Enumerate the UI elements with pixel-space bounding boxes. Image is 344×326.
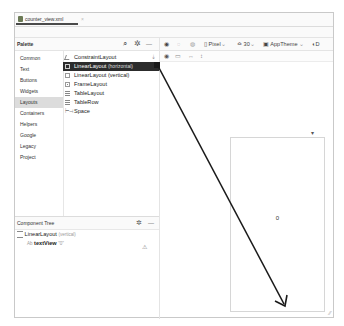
linear-layout-icon <box>17 231 23 238</box>
category-common[interactable]: Common <box>15 53 63 64</box>
palette-item-constraintlayout[interactable]: ConstraintLayout ⇣ <box>63 53 159 62</box>
category-project[interactable]: Project <box>15 152 63 163</box>
category-containers[interactable]: Containers <box>15 108 63 119</box>
close-tab-icon[interactable]: × <box>81 13 84 25</box>
linear-layout-vertical-icon <box>65 73 70 78</box>
component-tree-header: Component Tree ✲ — <box>15 216 159 230</box>
item-label: LinearLayout <box>74 63 106 69</box>
tree-node-label: textView <box>34 240 57 246</box>
category-buttons[interactable]: Buttons <box>15 75 63 86</box>
warning-icon[interactable]: ⚠ <box>142 243 147 250</box>
palette-item-linearlayout-vertical[interactable]: LinearLayout (vertical) <box>63 71 159 80</box>
palette-item-framelayout[interactable]: FrameLayout <box>63 80 159 89</box>
palette-item-tablerow[interactable]: TableRow <box>63 98 159 107</box>
locale-icon[interactable]: ◐D <box>312 38 319 50</box>
tree-node-sublabel: (vertical) <box>58 232 75 237</box>
category-text[interactable]: Text <box>15 64 63 75</box>
mode-strip <box>15 27 333 38</box>
item-sublabel: (vertical) <box>108 72 129 78</box>
item-label: ConstraintLayout <box>74 54 116 60</box>
palette-categories: Common Text Buttons Widgets Layouts Cont… <box>15 51 64 216</box>
space-icon: ⊢⊣ <box>65 109 70 114</box>
tree-node-label: LinearLayout <box>25 231 57 237</box>
item-label: Space <box>74 108 90 114</box>
blueprint-icon[interactable]: ◌ <box>177 38 180 50</box>
editor-tab-bar: counter_view.xml × <box>15 13 333 27</box>
item-sublabel: (horizontal) <box>108 63 133 69</box>
design-surface[interactable]: ▾ 0 ⁄⁄ <box>160 62 333 317</box>
tree-node-value: "0" <box>58 241 64 246</box>
item-label: LinearLayout <box>74 72 106 78</box>
gear-icon[interactable]: ✲ <box>134 39 141 49</box>
layout-bounds-icon[interactable]: ▭ <box>175 51 181 61</box>
api-level-selector[interactable]: ≏ 30⌄ <box>237 38 255 50</box>
category-layouts[interactable]: Layouts <box>15 97 63 108</box>
device-preview[interactable]: 0 <box>230 137 325 312</box>
palette-title: Palette <box>17 38 33 50</box>
frame-layout-icon <box>65 82 70 87</box>
resize-handle-icon[interactable]: ⁄⁄ <box>329 310 331 316</box>
layout-file-icon <box>18 16 23 22</box>
pin-icon: ▾ <box>311 129 314 136</box>
tab-counter-view-xml[interactable]: counter_view.xml × <box>16 13 78 25</box>
palette-item-tablelayout[interactable]: TableLayout <box>63 89 159 98</box>
tree-node-textview[interactable]: Ab textView "0" <box>27 239 64 248</box>
category-widgets[interactable]: Widgets <box>15 86 63 97</box>
textview-preview[interactable]: 0 <box>231 215 324 221</box>
theme-label: AppTheme <box>270 41 297 47</box>
device-label: Pixel <box>209 41 221 47</box>
tree-node-linearlayout[interactable]: LinearLayout (vertical) <box>17 230 76 239</box>
view-options-icon[interactable]: ◉ <box>164 51 169 61</box>
chevron-down-icon: ⌄ <box>221 41 226 47</box>
orientation-icon[interactable]: ◍ <box>190 38 195 50</box>
item-label: TableRow <box>74 99 99 105</box>
palette-items: ConstraintLayout ⇣ LinearLayout (horizon… <box>63 51 159 216</box>
search-icon[interactable]: ⌕ <box>123 39 127 49</box>
palette-header: Palette ⌕ ✲ — <box>15 38 159 51</box>
category-google[interactable]: Google <box>15 130 63 141</box>
download-icon[interactable]: ⇣ <box>151 53 156 62</box>
category-helpers[interactable]: Helpers <box>15 119 63 130</box>
chevron-down-icon: ⌄ <box>250 41 255 47</box>
design-view-icon[interactable]: ◉ <box>164 38 169 50</box>
design-toolbar: ◉ ◌ ◍ ▯ Pixel⌄ ≏ 30⌄ ▣ AppTheme ⌄ ◐D <box>160 38 333 51</box>
item-label: FrameLayout <box>74 81 107 87</box>
component-tree-title: Component Tree <box>17 217 54 229</box>
vertical-margin-icon[interactable]: ↕ <box>200 51 203 61</box>
table-layout-icon <box>65 91 70 96</box>
table-row-icon <box>65 100 70 105</box>
palette-item-linearlayout-horizontal[interactable]: LinearLayout (horizontal) <box>63 62 159 71</box>
palette-item-space[interactable]: ⊢⊣ Space <box>63 107 159 116</box>
design-sub-toolbar: ◉ ▭ ↔ ↕ <box>160 51 333 62</box>
textview-icon: Ab <box>27 241 33 246</box>
gear-icon[interactable]: ✲ <box>136 218 142 228</box>
theme-selector[interactable]: ▣ AppTheme ⌄ <box>263 38 304 50</box>
minimize-icon[interactable]: — <box>146 39 152 49</box>
editor-window: counter_view.xml × Palette ⌕ ✲ — Common … <box>14 12 334 318</box>
constraint-layout-icon <box>64 55 71 60</box>
horizontal-margin-icon[interactable]: ↔ <box>188 51 194 61</box>
chevron-down-icon: ⌄ <box>299 41 304 47</box>
item-label: TableLayout <box>74 90 104 96</box>
minimize-icon[interactable]: — <box>148 218 154 228</box>
device-selector[interactable]: ▯ Pixel⌄ <box>204 38 226 50</box>
category-legacy[interactable]: Legacy <box>15 141 63 152</box>
linear-layout-horizontal-icon <box>65 64 70 69</box>
tab-label: counter_view.xml <box>25 16 63 22</box>
